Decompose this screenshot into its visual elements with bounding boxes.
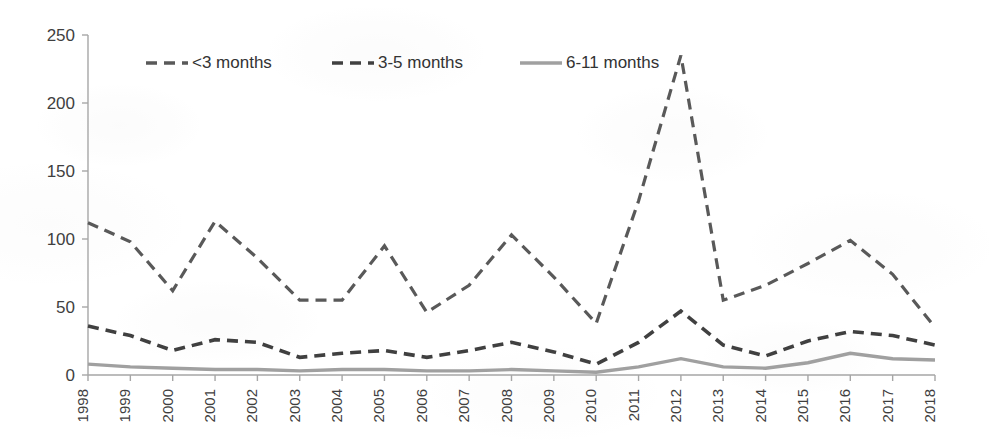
x-tick-label: 2015 — [794, 389, 811, 422]
x-tick-label: 2018 — [921, 389, 938, 422]
x-tick-label: 2001 — [201, 389, 218, 422]
x-tick-label: 2007 — [455, 389, 472, 422]
data-series-group — [88, 55, 935, 372]
series-line-3-months — [88, 55, 935, 327]
x-tick-label: 2017 — [879, 389, 896, 422]
x-tick-label: 2003 — [286, 389, 303, 422]
x-tick-label: 2013 — [709, 389, 726, 422]
y-tick-label: 150 — [47, 162, 75, 181]
x-tick-label: 2006 — [413, 389, 430, 422]
legend-label: 3-5 months — [378, 53, 463, 72]
y-tick-label: 50 — [56, 298, 75, 317]
x-tick-label: 2010 — [582, 389, 599, 422]
chart-canvas: 050100150200250 199819992000200120022003… — [0, 0, 989, 447]
x-tick-label: 1999 — [116, 389, 133, 422]
y-axis: 050100150200250 — [47, 26, 88, 385]
line-chart: 050100150200250 199819992000200120022003… — [0, 0, 989, 447]
y-tick-label: 250 — [47, 26, 75, 45]
series-line-3-5-months — [88, 311, 935, 364]
y-tick-label: 200 — [47, 94, 75, 113]
x-tick-label: 2002 — [243, 389, 260, 422]
chart-legend: <3 months3-5 months6-11 months — [146, 53, 659, 72]
x-tick-label: 2008 — [498, 389, 515, 422]
legend-label: <3 months — [192, 53, 272, 72]
x-axis: 1998199920002001200220032004200520062007… — [74, 375, 938, 422]
y-tick-label: 100 — [47, 230, 75, 249]
x-tick-label: 2012 — [667, 389, 684, 422]
x-tick-label: 1998 — [74, 389, 91, 422]
x-tick-label: 2005 — [370, 389, 387, 422]
series-line-6-11-months — [88, 353, 935, 372]
x-tick-label: 2000 — [159, 389, 176, 422]
x-tick-label: 2009 — [540, 389, 557, 422]
legend-label: 6-11 months — [566, 53, 659, 72]
x-tick-label: 2011 — [625, 389, 642, 421]
y-tick-label: 0 — [66, 366, 75, 385]
x-tick-label: 2016 — [836, 389, 853, 422]
x-tick-label: 2014 — [752, 389, 769, 422]
x-tick-label: 2004 — [328, 389, 345, 422]
